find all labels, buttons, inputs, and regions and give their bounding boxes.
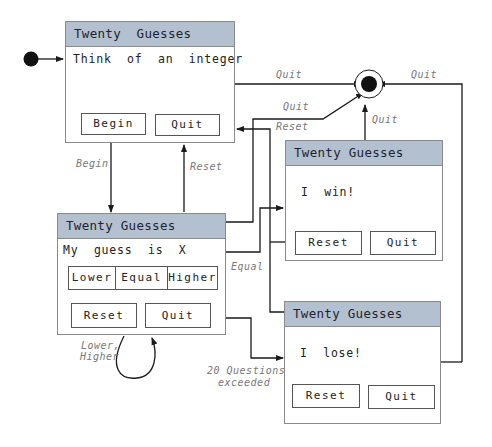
begin-button[interactable]: Begin (81, 113, 146, 135)
guess-message: My guess is X (63, 243, 187, 257)
start-message: Think of an integer (73, 52, 243, 66)
start-window-title: Twenty Guesses (66, 22, 234, 47)
higher-button[interactable]: Higher (167, 266, 218, 290)
start-window: Twenty Guesses Think of an integer Begin… (65, 21, 235, 143)
win-message: I win! (301, 185, 355, 199)
equal-button[interactable]: Equal (115, 266, 168, 290)
guess-window: Twenty Guesses My guess is X Lower Equal… (57, 213, 226, 335)
quit-button[interactable]: Quit (368, 385, 435, 409)
label-exceeded-2: exceeded (218, 377, 270, 388)
label-self-loop-2: Higher (80, 351, 119, 362)
label-begin: Begin (76, 158, 109, 169)
label-reset-win: Reset (276, 121, 309, 132)
win-window: Twenty Guesses I win! Reset Quit (285, 140, 443, 261)
label-reset-guess: Reset (190, 161, 223, 172)
label-quit-start: Quit (276, 69, 302, 80)
quit-button[interactable]: Quit (145, 303, 211, 328)
label-quit-win: Quit (372, 114, 398, 125)
label-equal: Equal (231, 261, 264, 272)
reset-button[interactable]: Reset (292, 384, 360, 408)
label-quit-lose: Quit (411, 69, 437, 80)
reset-button[interactable]: Reset (71, 303, 137, 328)
lose-message: I lose! (300, 346, 362, 360)
reset-button[interactable]: Reset (295, 231, 362, 255)
label-exceeded-1: 20 Questions (207, 365, 285, 376)
lose-window: Twenty Guesses I lose! Reset Quit (284, 301, 441, 424)
lower-button[interactable]: Lower (68, 266, 116, 290)
label-quit-guess: Quit (283, 101, 309, 112)
quit-button[interactable]: Quit (155, 114, 220, 136)
label-self-loop-1: Lower, (81, 340, 120, 351)
lose-window-title: Twenty Guesses (285, 302, 440, 327)
initial-state-icon (24, 52, 39, 67)
guess-window-title: Twenty Guesses (58, 214, 225, 239)
win-window-title: Twenty Guesses (286, 141, 442, 166)
quit-button[interactable]: Quit (370, 231, 436, 255)
